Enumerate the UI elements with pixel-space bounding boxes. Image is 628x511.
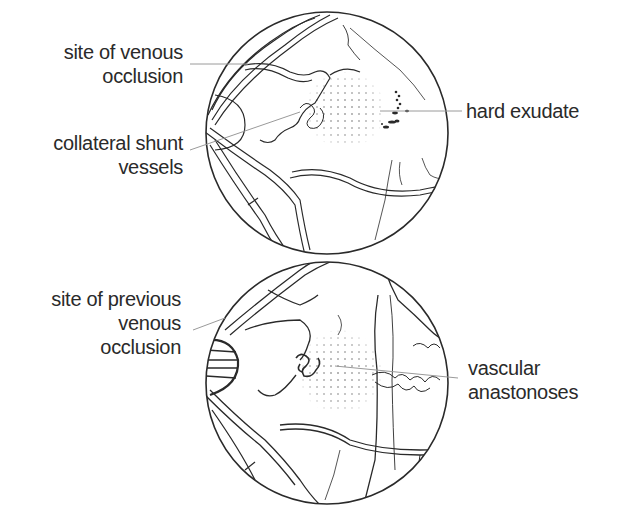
- label-line: collateral shunt: [10, 131, 183, 155]
- label-line: anastonoses: [468, 380, 628, 404]
- top-fundus: [205, 12, 450, 258]
- label-line: vascular: [468, 356, 628, 380]
- label-site-of-previous-venous-occlusion: site of previous venous occlusion: [10, 287, 181, 359]
- label-vascular-anastonoses: vascular anastonoses: [468, 356, 628, 404]
- label-line: venous: [10, 311, 181, 335]
- label-line: vessels: [10, 155, 183, 179]
- label-line: site of venous: [20, 40, 183, 64]
- label-collateral-shunt-vessels: collateral shunt vessels: [10, 131, 183, 179]
- leader-site-of-previous-venous-occlusion: [193, 318, 225, 330]
- label-hard-exudate: hard exudate: [466, 99, 626, 123]
- label-line: occlusion: [20, 64, 183, 88]
- label-line: hard exudate: [466, 99, 626, 123]
- bottom-fundus: [205, 260, 450, 505]
- label-line: occlusion: [10, 335, 181, 359]
- label-line: site of previous: [10, 287, 181, 311]
- label-site-of-venous-occlusion: site of venous occlusion: [20, 40, 183, 88]
